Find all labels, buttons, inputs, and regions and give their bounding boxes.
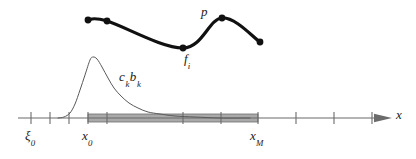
- bk-subscript: k: [137, 79, 141, 89]
- p-curve-path: [88, 18, 260, 48]
- basis-function-curve: [58, 57, 250, 118]
- xi0-subscript: 0: [31, 138, 35, 148]
- p-curve-point-4: [257, 39, 264, 46]
- basis-function-path: [58, 57, 250, 118]
- axis-tick-label-xi0: ξ0: [25, 129, 35, 145]
- figure-container: p fi ckbk ξ0 x0 xM x: [0, 0, 416, 159]
- data-point-label-fi: fi: [184, 52, 190, 68]
- p-curve: [88, 18, 260, 48]
- p-curve-point-1: [104, 18, 111, 25]
- p-curve-point-3: [219, 15, 226, 22]
- curve-label-p: p: [201, 5, 208, 18]
- x-axis-title: x: [396, 108, 402, 121]
- x-axis-arrowhead: [374, 114, 392, 122]
- basis-function-label-ck-bk: ckbk: [119, 70, 141, 86]
- p-curve-point-0: [85, 17, 92, 24]
- bk-base: b: [130, 69, 137, 84]
- x0-base: x: [82, 128, 88, 143]
- axis-tick-label-x0: x0: [82, 129, 92, 145]
- xM-base: x: [250, 128, 256, 143]
- xM-subscript: M: [256, 138, 263, 148]
- xi0-base: ξ: [25, 128, 31, 143]
- x0-subscript: 0: [88, 138, 92, 148]
- figure-canvas: [0, 0, 416, 159]
- axis-tick-label-xM: xM: [250, 129, 263, 145]
- ck-subscript: k: [125, 79, 129, 89]
- fi-subscript: i: [188, 61, 190, 71]
